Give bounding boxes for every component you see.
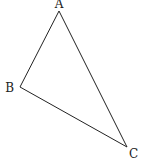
triangle-abc xyxy=(20,11,127,147)
triangle-diagram: A B C xyxy=(0,0,143,160)
vertex-label-a: A xyxy=(54,0,64,11)
vertex-label-b: B xyxy=(5,81,14,95)
vertex-label-c: C xyxy=(129,147,138,160)
